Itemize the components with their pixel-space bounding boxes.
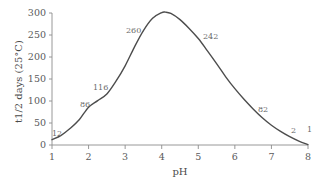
y-tick-label: 100 <box>6 96 46 106</box>
x-tick-label: 3 <box>115 152 135 162</box>
y-tick-label: 150 <box>6 74 46 84</box>
data-point-label: 82 <box>258 106 268 114</box>
x-axis-title: pH <box>140 167 220 177</box>
axes-group <box>52 13 308 145</box>
data-point-label: 12 <box>52 130 62 138</box>
y-axis-title: t1/2 days (25°C) <box>14 40 24 123</box>
x-tick-label: 6 <box>225 152 245 162</box>
y-tick-label: 50 <box>6 118 46 128</box>
data-point-label: 116 <box>93 84 108 92</box>
data-curve <box>52 12 308 145</box>
x-tick-label: 5 <box>188 152 208 162</box>
data-point-label: 2 <box>291 127 296 135</box>
y-tick-label: 200 <box>6 52 46 62</box>
y-tick-label: 250 <box>6 30 46 40</box>
x-tick-label: 4 <box>152 152 172 162</box>
data-point-label: 86 <box>80 101 90 109</box>
data-point-label: 242 <box>203 33 218 41</box>
x-tick-label: 2 <box>79 152 99 162</box>
y-tick-label: 0 <box>6 140 46 150</box>
x-tick-label: 8 <box>298 152 318 162</box>
y-tick-label: 300 <box>6 8 46 18</box>
data-point-label: 1 <box>307 126 312 134</box>
chart-figure: 05010015020025030012345678 1286116260242… <box>0 0 324 186</box>
x-tick-marks <box>52 145 308 149</box>
x-tick-label: 1 <box>42 152 62 162</box>
data-point-label: 260 <box>126 27 141 35</box>
x-tick-label: 7 <box>261 152 281 162</box>
